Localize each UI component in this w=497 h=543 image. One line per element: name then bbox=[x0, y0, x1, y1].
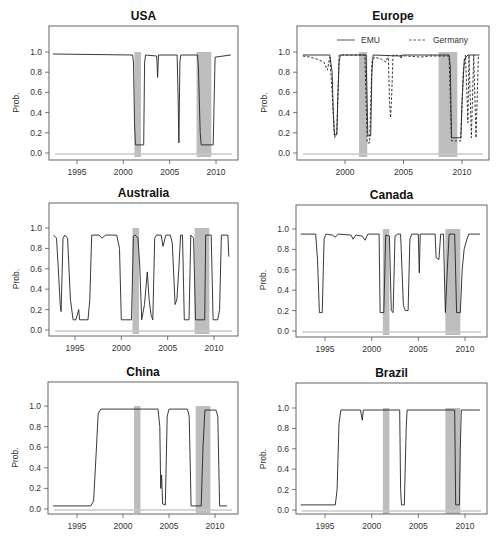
y-tick-label: 1.0 bbox=[277, 403, 289, 413]
y-tick-label: 0.8 bbox=[30, 67, 42, 77]
y-tick-label: 0.8 bbox=[29, 422, 41, 432]
panel-canada: Canada0.00.20.40.60.81.0Prob.19952000200… bbox=[258, 188, 487, 354]
y-axis-label: Prob. bbox=[258, 449, 268, 469]
x-tick-label: 1995 bbox=[68, 521, 87, 531]
x-tick-label: 1995 bbox=[316, 521, 335, 531]
x-tick-label: 2010 bbox=[205, 343, 224, 353]
y-tick-label: 0.2 bbox=[277, 306, 289, 316]
x-tick-label: 2000 bbox=[114, 167, 133, 177]
y-tick-label: 1.0 bbox=[278, 47, 290, 57]
plot-frame bbox=[297, 26, 489, 160]
y-tick-label: 0.6 bbox=[30, 264, 42, 274]
y-tick-label: 0.4 bbox=[30, 108, 42, 118]
x-tick-label: 2005 bbox=[160, 167, 179, 177]
y-axis-label: Prob. bbox=[259, 92, 269, 112]
x-tick-label: 2005 bbox=[394, 167, 413, 177]
figure-canvas: USA0.00.20.40.60.81.0Prob.19952000200520… bbox=[0, 0, 497, 543]
y-tick-label: 0.6 bbox=[277, 265, 289, 275]
y-tick-label: 0.4 bbox=[278, 108, 290, 118]
legend-label-germany: Germany bbox=[433, 35, 469, 45]
panel-title: Canada bbox=[370, 188, 414, 202]
x-tick-label: 1995 bbox=[66, 343, 85, 353]
y-tick-label: 0.0 bbox=[278, 148, 290, 158]
y-tick-label: 0.4 bbox=[30, 284, 42, 294]
y-tick-label: 0.4 bbox=[29, 463, 41, 473]
y-tick-label: 0.0 bbox=[30, 148, 42, 158]
y-axis-label: Prob. bbox=[10, 447, 20, 467]
x-tick-label: 2000 bbox=[336, 167, 355, 177]
y-tick-label: 0.4 bbox=[277, 464, 289, 474]
x-tick-label: 2000 bbox=[362, 521, 381, 531]
y-axis-label: Prob. bbox=[258, 270, 268, 290]
y-tick-label: 1.0 bbox=[277, 224, 289, 234]
y-tick-label: 0.2 bbox=[29, 483, 41, 493]
y-axis-label: Prob. bbox=[11, 92, 21, 112]
legend-label-emu: EMU bbox=[361, 35, 380, 45]
recession-band bbox=[383, 229, 390, 335]
recession-band bbox=[195, 228, 210, 334]
x-tick-label: 2005 bbox=[409, 521, 428, 531]
x-tick-label: 2005 bbox=[409, 344, 428, 354]
panel-usa: USA0.00.20.40.60.81.0Prob.19952000200520… bbox=[11, 9, 238, 177]
x-tick-label: 2010 bbox=[207, 167, 226, 177]
y-tick-label: 0.0 bbox=[30, 325, 42, 335]
y-tick-label: 0.8 bbox=[277, 244, 289, 254]
x-tick-label: 2005 bbox=[160, 521, 179, 531]
recession-band bbox=[383, 408, 390, 514]
panel-europe: Europe0.00.20.40.60.81.0Prob.20002005201… bbox=[259, 9, 489, 177]
y-tick-label: 0.8 bbox=[277, 423, 289, 433]
y-tick-label: 0.6 bbox=[30, 87, 42, 97]
y-tick-label: 0.6 bbox=[277, 444, 289, 454]
panel-australia: Australia0.00.20.40.60.81.0Prob.19952000… bbox=[11, 186, 238, 353]
y-tick-label: 0.8 bbox=[30, 243, 42, 253]
y-tick-label: 0.4 bbox=[277, 285, 289, 295]
y-tick-label: 0.6 bbox=[29, 442, 41, 452]
panel-title: Brazil bbox=[375, 366, 408, 380]
y-tick-label: 0.2 bbox=[277, 485, 289, 495]
x-tick-label: 2005 bbox=[158, 343, 177, 353]
panel-title: Australia bbox=[118, 186, 170, 200]
y-tick-label: 1.0 bbox=[29, 401, 41, 411]
x-tick-label: 2010 bbox=[453, 167, 472, 177]
y-tick-label: 0.2 bbox=[30, 128, 42, 138]
x-tick-label: 2000 bbox=[362, 344, 381, 354]
x-tick-label: 2000 bbox=[114, 521, 133, 531]
panel-title: Europe bbox=[372, 9, 414, 23]
y-tick-label: 0.0 bbox=[277, 326, 289, 336]
y-tick-label: 0.0 bbox=[277, 505, 289, 515]
x-tick-label: 2010 bbox=[456, 521, 475, 531]
panel-title: USA bbox=[131, 9, 157, 23]
y-tick-label: 0.6 bbox=[278, 87, 290, 97]
x-tick-label: 1995 bbox=[68, 167, 87, 177]
recession-band bbox=[439, 52, 458, 157]
panel-brazil: Brazil0.00.20.40.60.81.0Prob.19952000200… bbox=[258, 366, 487, 531]
y-tick-label: 1.0 bbox=[30, 223, 42, 233]
y-tick-label: 0.2 bbox=[30, 305, 42, 315]
recession-band bbox=[134, 406, 140, 513]
x-tick-label: 2000 bbox=[112, 343, 131, 353]
recession-band bbox=[445, 229, 460, 335]
y-tick-label: 0.2 bbox=[278, 128, 290, 138]
recession-band bbox=[445, 408, 460, 514]
y-tick-label: 0.0 bbox=[29, 504, 41, 514]
y-tick-label: 1.0 bbox=[30, 47, 42, 57]
y-axis-label: Prob. bbox=[11, 269, 21, 289]
x-tick-label: 2010 bbox=[206, 521, 225, 531]
panel-china: China0.00.20.40.60.81.0Prob.199520002005… bbox=[10, 365, 238, 531]
x-tick-label: 2010 bbox=[456, 344, 475, 354]
panel-title: China bbox=[126, 365, 160, 379]
x-tick-label: 1995 bbox=[316, 344, 335, 354]
y-tick-label: 0.8 bbox=[278, 67, 290, 77]
